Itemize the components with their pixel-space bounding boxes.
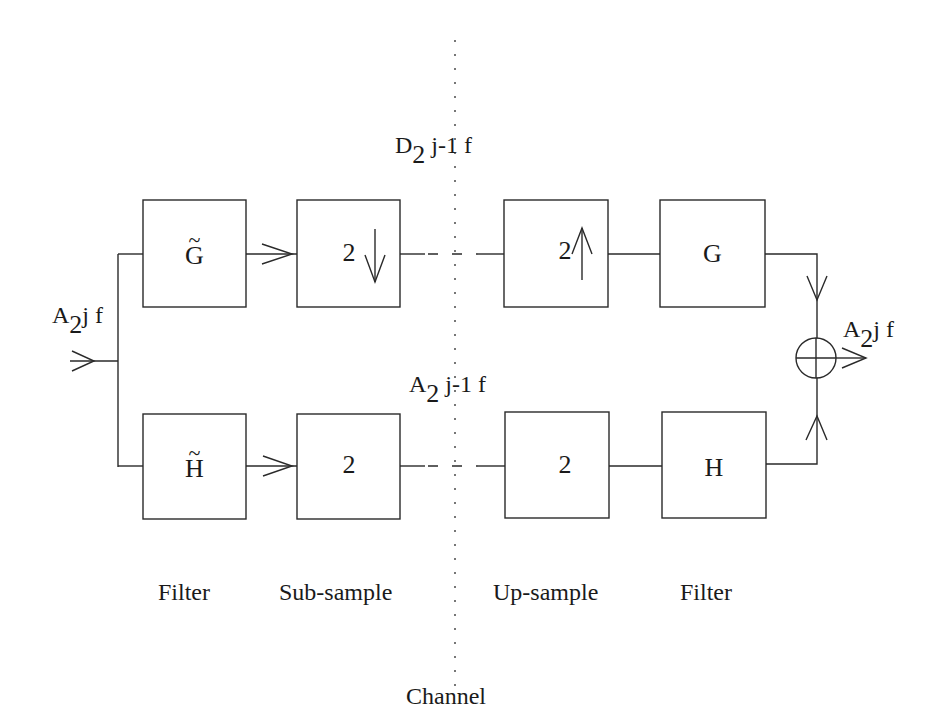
top-output-wire xyxy=(765,254,817,338)
top-downsample-factor: 2 xyxy=(334,240,364,266)
bottom-analysis-filter-label: ~H xyxy=(143,456,246,482)
filter-bank-diagram xyxy=(0,0,945,719)
caption-synthesis-filter: Filter xyxy=(680,579,732,606)
caption-sub-sample: Sub-sample xyxy=(279,579,392,606)
caption-up-sample: Up-sample xyxy=(493,579,598,606)
approx-signal-label: A2 j-1 f xyxy=(409,372,486,396)
detail-signal-label: D2 j-1 f xyxy=(395,133,472,157)
caption-analysis-filter: Filter xyxy=(158,579,210,606)
output-signal-label: A2j f xyxy=(843,317,894,341)
top-upsample-factor: 2 xyxy=(553,238,577,264)
top-analysis-filter-label: ~G xyxy=(143,243,246,269)
bottom-synthesis-filter-label: H xyxy=(662,455,766,481)
channel-label: Channel xyxy=(406,683,486,710)
input-signal-label: A2j f xyxy=(52,303,103,327)
bottom-output-wire xyxy=(766,378,817,464)
bottom-downsample-factor: 2 xyxy=(334,452,364,478)
top-synthesis-filter-label: G xyxy=(660,241,765,267)
bottom-upsample-factor: 2 xyxy=(553,452,577,478)
